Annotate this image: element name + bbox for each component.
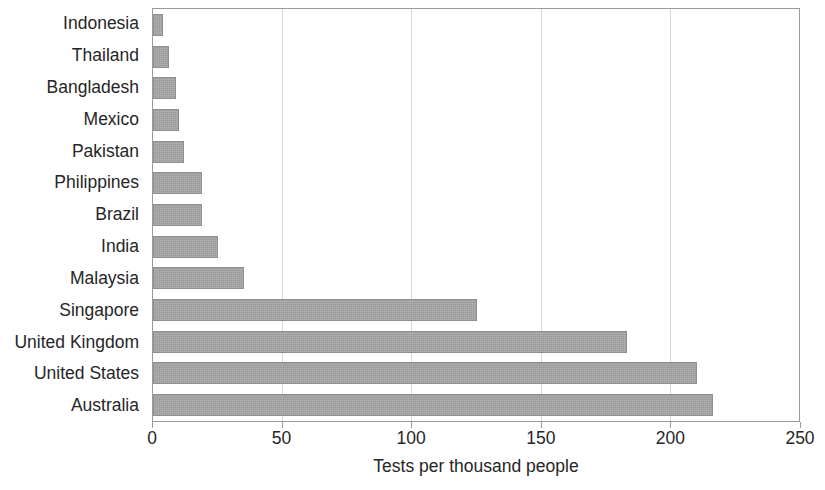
bar[interactable] <box>153 267 244 289</box>
category-label-row: Thailand <box>0 40 146 72</box>
x-axis-title: Tests per thousand people <box>152 458 800 476</box>
bar-row <box>153 358 799 390</box>
bar-row <box>153 136 799 168</box>
category-label: Pakistan <box>72 143 139 161</box>
category-label: India <box>101 238 139 256</box>
x-axis-tick-label: 250 <box>785 430 814 448</box>
x-axis-tick-label: 100 <box>397 430 426 448</box>
bar[interactable] <box>153 77 176 99</box>
bar-row <box>153 389 799 421</box>
bar[interactable] <box>153 46 169 68</box>
category-label: Mexico <box>84 111 139 129</box>
category-label-row: Brazil <box>0 199 146 231</box>
x-axis-tick-label: 200 <box>656 430 685 448</box>
category-label-row: United States <box>0 358 146 390</box>
bar-row <box>153 294 799 326</box>
category-label-row: Mexico <box>0 104 146 136</box>
bar-row <box>153 326 799 358</box>
category-label: Australia <box>71 397 139 415</box>
bar-row <box>153 72 799 104</box>
category-label-row: Pakistan <box>0 135 146 167</box>
category-label-row: United Kingdom <box>0 326 146 358</box>
category-label: Thailand <box>72 47 139 65</box>
value-axis-tick-marks <box>152 422 800 429</box>
bar[interactable] <box>153 362 697 384</box>
category-label-row: Australia <box>0 390 146 422</box>
bar[interactable] <box>153 331 627 353</box>
bar[interactable] <box>153 141 184 163</box>
plot-area <box>152 8 800 422</box>
bar-row <box>153 104 799 136</box>
bar[interactable] <box>153 14 163 36</box>
category-label: Brazil <box>95 206 139 224</box>
category-axis: IndonesiaThailandBangladeshMexicoPakista… <box>0 8 146 422</box>
bar[interactable] <box>153 299 477 321</box>
category-label-row: Indonesia <box>0 8 146 40</box>
x-axis-tick-label: 150 <box>526 430 555 448</box>
category-label: Indonesia <box>63 15 139 33</box>
bar[interactable] <box>153 204 202 226</box>
bar[interactable] <box>153 109 179 131</box>
bar-row <box>153 41 799 73</box>
category-label-row: Singapore <box>0 295 146 327</box>
category-label-row: India <box>0 231 146 263</box>
bar[interactable] <box>153 172 202 194</box>
bar-row <box>153 231 799 263</box>
category-label-row: Bangladesh <box>0 72 146 104</box>
category-label: United States <box>34 365 139 383</box>
bars-layer <box>153 9 799 421</box>
category-label: Bangladesh <box>47 79 139 97</box>
value-axis-labels: 050100150200250 <box>152 430 800 454</box>
x-axis-tick-label: 50 <box>272 430 291 448</box>
bar-row <box>153 263 799 295</box>
category-label: Malaysia <box>70 270 139 288</box>
category-label: Philippines <box>54 174 139 192</box>
category-label-row: Malaysia <box>0 263 146 295</box>
bar[interactable] <box>153 236 218 258</box>
category-label: United Kingdom <box>14 334 139 352</box>
category-label: Singapore <box>59 302 139 320</box>
bar-row <box>153 199 799 231</box>
category-label-row: Philippines <box>0 167 146 199</box>
x-axis-tick-label: 0 <box>147 430 157 448</box>
bar-chart: IndonesiaThailandBangladeshMexicoPakista… <box>0 0 825 490</box>
bar-row <box>153 167 799 199</box>
bar-row <box>153 9 799 41</box>
bar[interactable] <box>153 394 713 416</box>
